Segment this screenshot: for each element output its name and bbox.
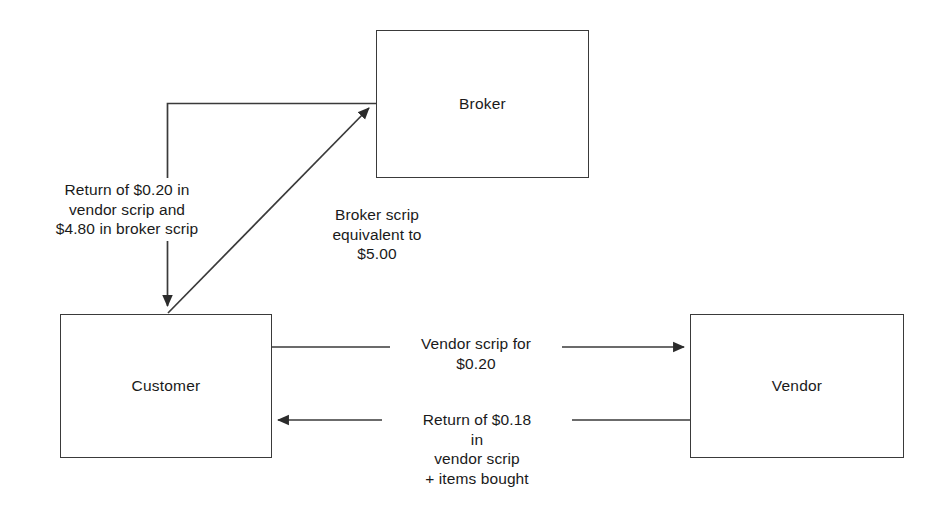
- edge-label-customer-to-broker: Broker scrip equivalent to $5.00: [298, 203, 456, 266]
- node-broker[interactable]: Broker: [376, 30, 589, 178]
- node-customer[interactable]: Customer: [60, 314, 272, 458]
- node-vendor-label: Vendor: [691, 377, 903, 395]
- node-customer-label: Customer: [61, 377, 271, 395]
- edge-label-vendor-to-customer: Return of $0.18 in vendor scrip + items …: [382, 408, 572, 490]
- node-vendor[interactable]: Vendor: [690, 314, 904, 458]
- edge-label-customer-to-vendor: Vendor scrip for $0.20: [390, 332, 562, 375]
- diagram-canvas: Broker Customer Vendor Return of $0.20 i…: [0, 0, 928, 523]
- node-broker-label: Broker: [377, 95, 588, 113]
- edge-label-broker-to-customer: Return of $0.20 in vendor scrip and $4.8…: [28, 178, 226, 241]
